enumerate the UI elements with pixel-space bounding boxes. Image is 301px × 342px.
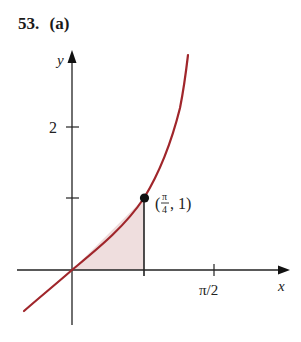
- point-label-open: (: [155, 195, 160, 213]
- tan-curve: [24, 55, 188, 311]
- y-axis-arrow-icon: [68, 50, 77, 63]
- tan-chart: y x 2 π/2 ( π 4 , 1): [0, 0, 301, 342]
- point-marker: [140, 193, 149, 202]
- x-tick-label-pi2: π/2: [199, 282, 218, 298]
- shaded-area-fill: [72, 198, 144, 270]
- x-axis-arrow-icon: [278, 266, 290, 275]
- point-label-den: 4: [162, 204, 167, 215]
- point-label-rest: , 1): [170, 195, 191, 213]
- x-axis-label: x: [277, 278, 285, 294]
- y-axis-label: y: [55, 52, 64, 68]
- point-label-num: π: [162, 191, 167, 202]
- y-tick-label-2: 2: [49, 119, 57, 136]
